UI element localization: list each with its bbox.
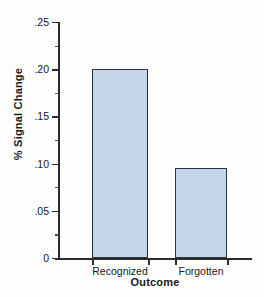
y-tick-label: .05 [34, 206, 49, 217]
y-tick-label: .20 [34, 64, 49, 75]
x-axis-line [55, 258, 252, 260]
y-tick-label: 0 [43, 253, 49, 264]
y-tick-minor [55, 187, 60, 188]
y-tick-major [52, 164, 59, 165]
bar-recognized[interactable] [92, 69, 148, 258]
y-tick-major [52, 258, 59, 259]
y-tick-label: .15 [34, 111, 49, 122]
y-tick-label: .10 [34, 158, 49, 169]
x-tick-label-forgotten: Forgotten [179, 266, 224, 277]
x-tick [148, 258, 150, 265]
y-tick-major [52, 211, 59, 212]
x-tick [175, 258, 177, 265]
x-tick-label-recognized: Recognized [92, 266, 147, 277]
y-tick-minor [55, 93, 60, 94]
x-tick [92, 258, 94, 265]
y-tick-major [52, 116, 59, 117]
x-axis-title: Outcome [58, 276, 252, 288]
y-tick-label: .25 [34, 17, 49, 28]
y-tick-major [52, 22, 59, 23]
y-tick-minor [55, 234, 60, 235]
y-tick-major [52, 69, 59, 70]
y-tick-minor [55, 140, 60, 141]
y-axis-title: % Signal Change [12, 44, 24, 184]
plot-area: .25 .20 .15 .10 .05 0 [58, 22, 252, 258]
bar-chart-figure: % Signal Change .25 .20 .15 .10 .05 0 [0, 0, 264, 297]
x-tick [227, 258, 229, 265]
bar-forgotten[interactable] [175, 168, 227, 258]
y-tick-minor [55, 46, 60, 47]
